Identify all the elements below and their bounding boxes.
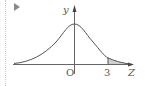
origin-label: O	[66, 67, 74, 78]
y-axis-arrow-icon	[73, 5, 77, 12]
x-axis-label: Z	[127, 67, 136, 78]
y-axis-label: y	[62, 4, 69, 15]
x-axis-arrow-icon	[128, 63, 134, 67]
normal-curve-diagram: y O 3 Z	[0, 0, 145, 86]
tick-label-3: 3	[104, 67, 110, 78]
bell-curve	[14, 24, 130, 64]
